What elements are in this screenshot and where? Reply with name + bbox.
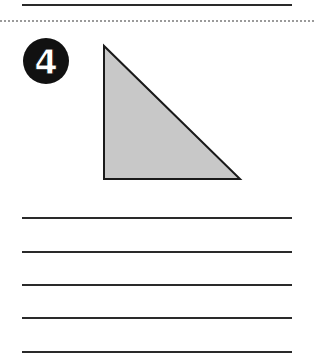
answer-line-2[interactable] [22, 251, 292, 253]
answer-line-5[interactable] [22, 351, 292, 353]
answer-line-3[interactable] [22, 284, 292, 286]
answer-line-1[interactable] [22, 217, 292, 219]
right-triangle-figure [0, 0, 314, 355]
answer-line-4[interactable] [22, 317, 292, 319]
